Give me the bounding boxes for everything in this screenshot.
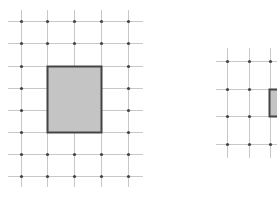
grid-dot (100, 42, 103, 45)
grid-dot (100, 153, 103, 156)
grid-dot (73, 175, 76, 178)
grid-diagram (0, 0, 277, 202)
grid-dot (73, 42, 76, 45)
grid-dot (20, 65, 23, 68)
grid-dot (127, 20, 130, 23)
grid-dot (226, 60, 229, 63)
grid-dot (20, 109, 23, 112)
grid-dot (46, 20, 49, 23)
grid-dot (46, 175, 49, 178)
grid-dot (46, 153, 49, 156)
grid-dot (20, 87, 23, 90)
grid-dot (269, 143, 272, 146)
grid-dot (226, 115, 229, 118)
grid-dot (248, 143, 251, 146)
grid-dot (100, 175, 103, 178)
grid-dot (100, 20, 103, 23)
grid-dot (127, 42, 130, 45)
grid-dot (248, 115, 251, 118)
grid-dot (248, 88, 251, 91)
grid-dot (20, 153, 23, 156)
grid-dot (20, 42, 23, 45)
grid-dot (127, 65, 130, 68)
grid-dot (226, 88, 229, 91)
grid-dot (46, 42, 49, 45)
grid-dot (73, 153, 76, 156)
grid-dot (127, 131, 130, 134)
grid-dot (248, 60, 251, 63)
grid-dot (127, 109, 130, 112)
grid-dot (20, 131, 23, 134)
grid-dot (127, 153, 130, 156)
grid-dot (127, 175, 130, 178)
shaded-rectangle (270, 90, 278, 117)
grid-dot (20, 20, 23, 23)
grid-dot (20, 175, 23, 178)
right-grid (216, 48, 277, 158)
grid-dot (127, 87, 130, 90)
grid-dot (73, 20, 76, 23)
shaded-rectangle (48, 67, 102, 133)
grid-dot (226, 143, 229, 146)
grid-dot (269, 60, 272, 63)
left-grid (8, 10, 143, 187)
